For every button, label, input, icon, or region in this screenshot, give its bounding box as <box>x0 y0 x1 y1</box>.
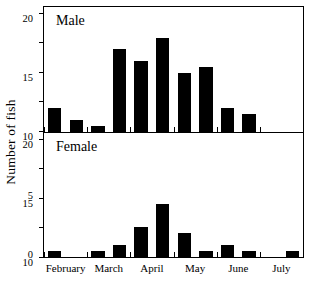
bar <box>70 120 83 132</box>
bar <box>199 67 212 132</box>
y-tick-15: 15 <box>39 168 44 169</box>
bar <box>242 114 255 132</box>
bar <box>48 251 61 257</box>
panel-female: Female 05101520 <box>43 132 304 258</box>
bar <box>199 251 212 257</box>
x-axis-label-february: February <box>46 262 86 274</box>
bar <box>113 49 126 132</box>
y-tick-10: 10 <box>39 198 44 199</box>
bar <box>113 245 126 257</box>
y-tick-15: 15 <box>39 42 44 43</box>
bar <box>178 233 191 257</box>
bar <box>221 108 234 132</box>
x-tick <box>87 252 88 257</box>
y-tick-label-20: 20 <box>23 140 34 151</box>
y-axis-title: Number of fish <box>0 0 22 292</box>
bar <box>156 38 169 132</box>
bar <box>48 108 61 132</box>
bar <box>242 251 255 257</box>
x-axis-label-april: April <box>140 262 163 274</box>
x-tick <box>260 252 261 257</box>
y-tick-label-10: 10 <box>23 258 34 269</box>
x-axis-label-may: May <box>185 262 205 274</box>
bar <box>134 61 147 132</box>
x-axis-label-july: July <box>272 262 290 274</box>
y-tick-10: 10 <box>39 72 44 73</box>
y-tick-20: 20 <box>39 13 44 14</box>
x-tick <box>303 252 304 257</box>
y-tick-5: 5 <box>39 101 44 102</box>
x-axis-label-june: June <box>228 262 248 274</box>
y-tick-label-15: 15 <box>23 199 34 210</box>
y-tick-20: 20 <box>39 139 44 140</box>
bar <box>91 251 104 257</box>
panel-male: Male 05101520 <box>43 6 304 132</box>
plot-area-male: 05101520 <box>44 7 303 132</box>
bar <box>156 204 169 257</box>
y-tick-0: 0 <box>39 257 44 258</box>
x-tick <box>130 252 131 257</box>
plot-area-female: 05101520 <box>44 133 303 257</box>
bar <box>178 73 191 132</box>
x-axis-label-march: March <box>94 262 123 274</box>
x-tick <box>217 252 218 257</box>
y-tick-label-15: 15 <box>23 73 34 84</box>
y-tick-label-20: 20 <box>23 14 34 25</box>
figure: Number of fish Male 05101520 Female 0510… <box>0 0 324 292</box>
y-axis-title-text: Number of fish <box>3 99 19 184</box>
bar <box>286 251 299 257</box>
bar <box>134 227 147 257</box>
x-tick <box>44 252 45 257</box>
x-tick <box>174 252 175 257</box>
bar <box>221 245 234 257</box>
y-tick-5: 5 <box>39 227 44 228</box>
